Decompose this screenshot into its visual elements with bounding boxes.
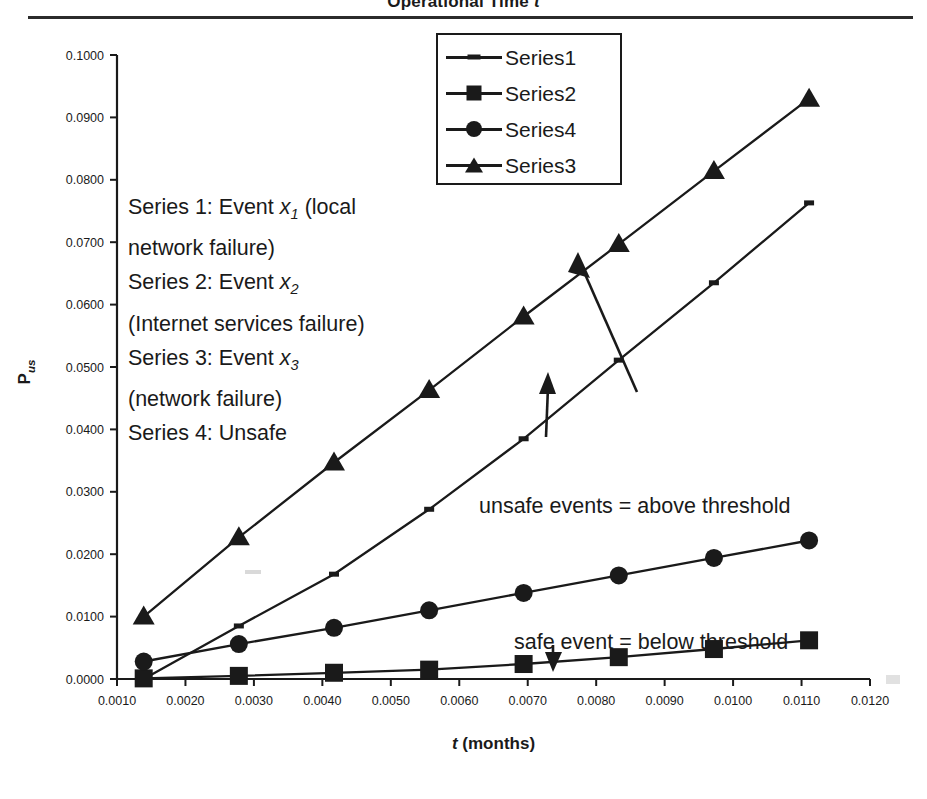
note-line: Series 2: Event x2	[128, 265, 458, 306]
data-point-square	[515, 655, 533, 673]
legend-label: Series3	[505, 155, 576, 176]
note-variable: x	[280, 195, 291, 219]
y-tick-label: 0.0400	[66, 423, 104, 437]
legend-marker-square-icon	[446, 83, 502, 103]
chart-arrow-annotations	[539, 252, 637, 672]
y-tick-label: 0.0800	[66, 173, 104, 187]
data-point-circle	[230, 635, 248, 653]
note-subscript: 2	[291, 282, 299, 298]
note-line: Series 1: Event x1 (local	[128, 190, 458, 231]
data-point-triangle	[228, 526, 250, 545]
legend-marker-circle-icon	[446, 119, 502, 139]
data-point-triangle	[323, 451, 345, 470]
legend-label: Series4	[505, 119, 576, 140]
threshold-pointer-arrow-head	[539, 372, 556, 394]
x-tick-label: 0.0100	[714, 694, 752, 708]
note-line: (Internet services failure)	[128, 307, 458, 341]
note-text: Series 4: Unsafe	[128, 421, 287, 445]
legend-label: Series2	[505, 83, 576, 104]
x-tick-label: 0.0010	[98, 694, 136, 708]
data-point-circle	[515, 584, 533, 602]
y-axis-title: Pus	[15, 359, 37, 384]
y-tick-label: 0.0100	[66, 610, 104, 624]
scan-artifact	[886, 675, 900, 684]
unsafe-events-annotation: unsafe events = above threshold	[479, 494, 790, 519]
note-variable: x	[280, 346, 291, 370]
x-tick-label: 0.0080	[577, 694, 615, 708]
note-text: (network failure)	[128, 387, 282, 411]
note-line: network failure)	[128, 231, 458, 265]
data-point-circle	[325, 619, 343, 637]
x-tick-label: 0.0060	[440, 694, 478, 708]
x-tick-label: 0.0050	[372, 694, 410, 708]
x-tick-label: 0.0070	[509, 694, 547, 708]
note-line: Series 4: Unsafe	[128, 416, 458, 450]
data-point-dash	[234, 623, 244, 628]
y-tick-label: 0.0700	[66, 236, 104, 250]
data-point-square	[135, 669, 153, 687]
y-tick-label: 0.0000	[66, 673, 104, 687]
data-point-dash	[804, 200, 814, 205]
note-subscript: 3	[291, 357, 299, 373]
x-tick-label: 0.0020	[166, 694, 204, 708]
note-text: (local	[299, 195, 356, 219]
safe-event-annotation: safe event = below threshold	[514, 630, 788, 655]
note-line: Series 3: Event x3	[128, 341, 458, 382]
data-point-triangle	[608, 233, 630, 252]
data-point-square	[230, 667, 248, 685]
scan-artifact	[245, 570, 261, 574]
note-text: (Internet services failure)	[128, 312, 365, 336]
y-tick-label: 0.0200	[66, 548, 104, 562]
data-point-circle	[705, 549, 723, 567]
note-subscript: 1	[291, 206, 299, 222]
x-tick-label: 0.0110	[783, 694, 820, 708]
legend-item-series3[interactable]: Series3	[438, 147, 620, 183]
note-line: (network failure)	[128, 382, 458, 416]
legend-marker-triangle-icon	[446, 155, 502, 175]
legend-item-series2[interactable]: Series2	[438, 75, 620, 111]
data-point-circle	[135, 653, 153, 671]
data-point-triangle	[703, 160, 725, 179]
data-point-triangle	[513, 305, 535, 324]
threshold-pointer-arrow-line	[546, 387, 548, 437]
note-variable: x	[280, 270, 291, 294]
y-tick-label: 0.0300	[66, 485, 104, 499]
note-text: Series 3: Event	[128, 346, 280, 370]
note-text: Series 2: Event	[128, 270, 280, 294]
x-axis-title: t (months)	[452, 734, 535, 753]
data-point-triangle	[133, 606, 155, 625]
legend-item-series4[interactable]: Series4	[438, 111, 620, 147]
chart-legend: Series1 Series2 Series4 Series3	[436, 33, 622, 185]
data-point-circle	[420, 601, 438, 619]
data-point-triangle	[798, 88, 820, 107]
note-text: network failure)	[128, 236, 275, 260]
unsafe-pointer-arrow-line	[581, 265, 637, 392]
chart-page: Operational Time t 0.00000.01000.02000.0…	[0, 0, 927, 799]
y-tick-label: 0.0900	[66, 111, 104, 125]
x-tick-label: 0.0120	[851, 694, 889, 708]
x-tick-label: 0.0090	[646, 694, 684, 708]
data-point-circle	[610, 566, 628, 584]
legend-marker-dash-icon	[446, 47, 502, 67]
data-point-dash	[424, 507, 434, 512]
y-tick-label: 0.1000	[66, 49, 104, 63]
unsafe-pointer-arrow-head	[568, 252, 590, 278]
data-point-dash	[709, 280, 719, 285]
series-description-notes: Series 1: Event x1 (localnetwork failure…	[128, 190, 458, 450]
data-point-square	[325, 664, 343, 682]
x-tick-label: 0.0040	[303, 694, 341, 708]
data-point-circle	[800, 531, 818, 549]
note-text: Series 1: Event	[128, 195, 280, 219]
x-tick-label: 0.0030	[235, 694, 273, 708]
data-point-square	[800, 631, 818, 649]
y-tick-label: 0.0500	[66, 361, 104, 375]
legend-label: Series1	[505, 47, 576, 68]
data-point-dash	[519, 436, 529, 441]
data-point-dash	[329, 572, 339, 577]
data-point-square	[420, 661, 438, 679]
y-tick-label: 0.0600	[66, 298, 104, 312]
legend-item-series1[interactable]: Series1	[438, 39, 620, 75]
